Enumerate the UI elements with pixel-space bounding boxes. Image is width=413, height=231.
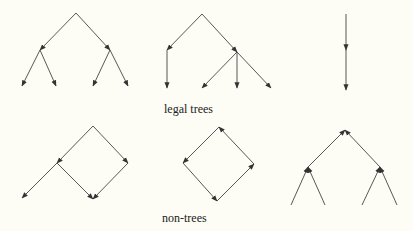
- arrow-edge: [291, 167, 308, 205]
- arrow-edge: [93, 126, 128, 163]
- non-trees-label: non-trees: [162, 211, 207, 226]
- arrow-edge: [167, 14, 202, 50]
- inverted-tree-diagram: [291, 130, 397, 205]
- arrow-edge: [22, 163, 57, 198]
- cycle-diagram: [183, 127, 254, 201]
- arrow-edge: [57, 163, 93, 199]
- arrow-edge: [40, 50, 56, 86]
- arrow-edge: [183, 163, 217, 201]
- arrow-edge: [76, 13, 110, 50]
- arrow-edge: [202, 14, 237, 52]
- arrow-edge: [57, 126, 93, 163]
- arrow-edge: [183, 127, 219, 163]
- arrow-edge: [362, 167, 380, 205]
- legal-trees-group: [22, 13, 346, 90]
- arrow-edge: [345, 130, 380, 167]
- arrow-edge: [40, 13, 76, 50]
- arrow-edge: [219, 127, 254, 164]
- shared-child-diagram: [22, 126, 128, 199]
- arrow-edge: [93, 50, 110, 86]
- arrow-edge: [110, 50, 128, 86]
- binary-tree-diagram: [22, 13, 128, 86]
- arrow-edge: [217, 164, 254, 201]
- diagram-canvas: legal trees non-trees: [0, 0, 413, 231]
- arrow-edge: [237, 52, 271, 88]
- arrow-edge: [308, 167, 325, 205]
- arrow-edge: [308, 130, 345, 167]
- non-trees-group: [22, 126, 397, 205]
- arrow-edge: [380, 167, 397, 205]
- arrow-edge: [22, 50, 40, 86]
- legal-trees-label: legal trees: [164, 102, 213, 117]
- arrow-edge: [202, 52, 237, 88]
- mixed-tree-diagram: [167, 14, 271, 88]
- arrow-edge: [93, 163, 128, 199]
